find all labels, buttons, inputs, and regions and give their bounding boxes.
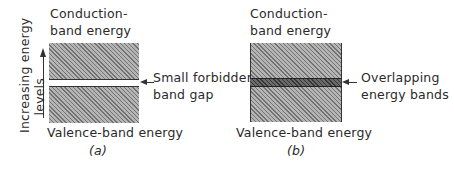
conduction-label-b-line2: band energy [250,23,331,39]
caption-a: (a) [89,143,107,159]
overlap-pointer-line [348,82,357,83]
gap-label-line1: Small forbidden- [153,70,259,86]
overlap-label-line1: Overlapping [361,70,440,86]
caption-b: (b) [287,143,305,159]
gap-label-line2: band gap [153,87,214,103]
valence-label-b: Valence-band energy [236,125,372,141]
conduction-band-a [49,43,139,80]
overlap-label-line2: energy bands [361,87,449,103]
conduction-label-a-line1: Conduction- [50,6,128,22]
overlap-band-b [250,78,341,87]
arrow-left-icon [342,79,349,85]
valence-label-a: Valence-band energy [47,125,183,141]
axis-label-line2: levels [32,78,48,118]
conduction-label-b-line1: Conduction- [250,6,328,22]
arrow-left-icon [140,79,147,85]
conduction-label-a-line2: band energy [50,23,131,39]
axis-label-line1: Increasing energy [17,23,33,133]
valence-band-a [49,86,139,123]
arrow-up-icon [40,48,46,57]
